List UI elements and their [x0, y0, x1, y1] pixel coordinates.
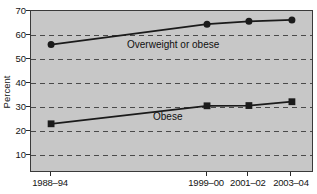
- x-axis-tick-label: 1999–00: [182, 177, 230, 189]
- x-axis-tick-label: 2003–04: [267, 177, 315, 189]
- y-axis-tick-mark: [26, 130, 30, 131]
- x-axis-tick-mark: [206, 172, 207, 176]
- y-axis-tick-label: 40: [2, 77, 26, 88]
- y-axis-tick-label: 50: [2, 53, 26, 64]
- square-data-point-marker: [246, 102, 253, 109]
- square-data-point-marker: [48, 120, 55, 127]
- x-axis-tick-label: 1988–94: [26, 177, 74, 189]
- y-axis-tick-label: 70: [2, 5, 26, 16]
- y-axis-tick-label: 10: [2, 149, 26, 160]
- y-axis-tick-label: 20: [2, 125, 26, 136]
- circle-data-point-marker: [288, 16, 295, 23]
- circle-data-point-marker: [48, 41, 55, 48]
- y-axis-tick-mark: [26, 58, 30, 59]
- circle-data-point-marker: [245, 18, 252, 25]
- series-lines: [31, 11, 314, 173]
- circle-data-point-marker: [204, 21, 211, 28]
- plot-area: Overweight or obese Obese: [30, 10, 313, 172]
- y-axis-tick-mark: [26, 10, 30, 11]
- x-axis-tick-label: 2001–02: [224, 177, 272, 189]
- x-axis-tick-mark: [50, 172, 51, 176]
- y-axis-tick-mark: [26, 34, 30, 35]
- square-data-point-marker: [289, 98, 296, 105]
- y-axis-tick-label: 60: [2, 29, 26, 40]
- obesity-trend-chart: Percent Overweight or obese Obese 706050…: [0, 0, 317, 194]
- x-axis-tick-mark: [247, 172, 248, 176]
- y-axis-tick-mark: [26, 106, 30, 107]
- x-axis-tick-mark: [290, 172, 291, 176]
- series-line-overweight-or-obese: [51, 20, 292, 45]
- y-axis-tick-mark: [26, 154, 30, 155]
- y-axis-tick-label: 30: [2, 101, 26, 112]
- y-axis-tick-mark: [26, 82, 30, 83]
- square-data-point-marker: [204, 102, 211, 109]
- series-line-obese: [51, 102, 292, 124]
